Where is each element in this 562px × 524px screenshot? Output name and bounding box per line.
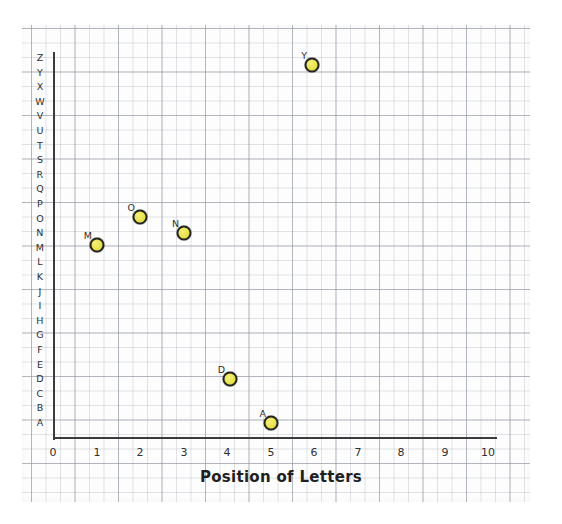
- data-point-label-a: A: [260, 409, 267, 419]
- y-tick-label-p: P: [33, 199, 47, 209]
- y-tick-label-n: N: [33, 228, 47, 238]
- x-tick-label-1: 1: [94, 447, 101, 458]
- x-tick-label-10: 10: [481, 447, 495, 458]
- y-axis-line: [53, 52, 55, 440]
- y-tick-label-u: U: [33, 126, 47, 136]
- y-tick-label-c: C: [33, 389, 47, 399]
- y-tick-label-a: A: [33, 418, 47, 428]
- y-tick-label-z: Z: [33, 53, 47, 63]
- y-tick-label-g: G: [33, 331, 47, 341]
- y-tick-label-x: X: [33, 82, 47, 92]
- y-tick-label-t: T: [33, 141, 47, 151]
- screenshot-root: ABCDEFGHIJKLMNOPQRSTUVWXYZ 012345678910 …: [0, 0, 562, 524]
- x-tick-label-7: 7: [355, 447, 362, 458]
- y-tick-label-e: E: [33, 360, 47, 370]
- y-tick-label-k: K: [33, 272, 47, 282]
- data-point-label-d: D: [218, 365, 225, 375]
- data-point-label-o: O: [128, 203, 135, 213]
- y-tick-label-w: W: [33, 97, 47, 107]
- x-axis-title: Position of Letters: [0, 468, 562, 486]
- y-tick-label-h: H: [33, 316, 47, 326]
- scatter-plot: ABCDEFGHIJKLMNOPQRSTUVWXYZ 012345678910 …: [0, 0, 562, 524]
- y-tick-label-b: B: [33, 404, 47, 414]
- x-tick-label-6: 6: [311, 447, 318, 458]
- x-tick-label-8: 8: [398, 447, 405, 458]
- y-tick-label-o: O: [33, 214, 47, 224]
- y-tick-label-v: V: [33, 112, 47, 122]
- y-tick-label-l: L: [33, 258, 47, 268]
- data-point-label-n: N: [172, 219, 179, 229]
- x-tick-label-5: 5: [268, 447, 275, 458]
- y-tick-label-s: S: [33, 155, 47, 165]
- y-tick-label-m: M: [33, 243, 47, 253]
- data-point-label-m: M: [84, 231, 92, 241]
- y-tick-label-q: Q: [33, 185, 47, 195]
- x-axis-line: [53, 437, 497, 439]
- y-tick-label-d: D: [33, 374, 47, 384]
- x-tick-label-4: 4: [224, 447, 231, 458]
- y-tick-label-y: Y: [33, 68, 47, 78]
- y-tick-label-r: R: [33, 170, 47, 180]
- y-tick-label-i: I: [33, 301, 47, 311]
- x-tick-label-0: 0: [50, 447, 57, 458]
- x-tick-label-3: 3: [181, 447, 188, 458]
- data-point-label-y: Y: [301, 51, 307, 61]
- x-tick-label-2: 2: [137, 447, 144, 458]
- x-tick-label-9: 9: [442, 447, 449, 458]
- y-tick-label-f: F: [33, 345, 47, 355]
- y-tick-label-j: J: [33, 287, 47, 297]
